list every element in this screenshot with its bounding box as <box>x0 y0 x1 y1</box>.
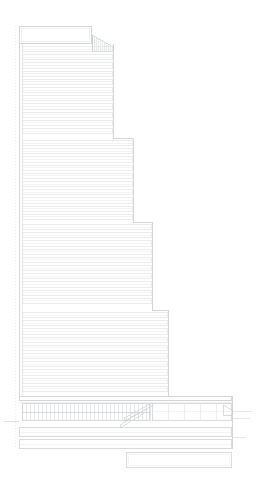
lower-slab-inner <box>129 455 230 466</box>
podium-bracket <box>223 405 232 415</box>
elevation-sheet <box>0 0 256 484</box>
elevation-drawing-canvas <box>0 0 256 484</box>
crown-box-inner <box>22 29 90 42</box>
crown-box <box>20 27 92 44</box>
podium-roof-band <box>20 397 232 401</box>
podium-right-bay <box>153 404 232 421</box>
